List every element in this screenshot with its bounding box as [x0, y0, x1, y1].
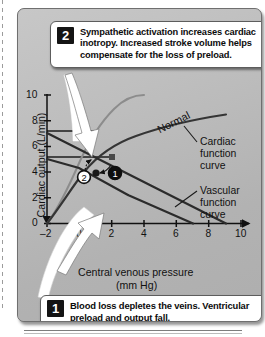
- xtick-6: 6: [173, 228, 179, 239]
- reference-lines: [47, 131, 110, 157]
- plot-point-label-2: 2: [78, 171, 91, 184]
- operating-point-1-marker: [109, 154, 115, 160]
- svg-text:2: 2: [81, 172, 86, 183]
- xtick-0: 0: [76, 228, 82, 239]
- operating-point-2-marker: [92, 169, 99, 176]
- callout-step-2-text: Sympathetic activation increases cardiac…: [80, 27, 262, 61]
- step-badge-1: 1: [47, 300, 64, 317]
- bottom-rule: [24, 330, 242, 331]
- callout-step-2: 2 Sympathetic activation increases cardi…: [50, 21, 262, 68]
- step-badge-2: 2: [57, 27, 74, 44]
- callout-step-1: 1 Blood loss depletes the veins. Ventric…: [40, 295, 262, 322]
- plot-point-label-1: 1: [108, 166, 121, 179]
- y-axis-title: Cardiac output (L/min): [35, 110, 47, 220]
- bottom-rule-shadow: [24, 333, 242, 334]
- xtick-10: 10: [235, 228, 246, 239]
- xtick-minus2: –2: [40, 228, 51, 239]
- callout-step-1-text: Blood loss depletes the veins. Ventricul…: [70, 300, 262, 322]
- curve-label-vascular: Vascularfunctioncurve: [200, 185, 240, 222]
- x-axis-title-line1: Central venous pressure: [78, 266, 193, 278]
- svg-text:1: 1: [112, 168, 117, 179]
- panel-inner: 2 1 10 8 6 4 2 0 –2 0 2 4 6 8: [18, 9, 261, 321]
- xtick-2: 2: [109, 228, 115, 239]
- curve-label-cardiac: Cardiacfunctioncurve: [200, 136, 236, 173]
- x-axis-title-line2: (mm Hg): [116, 279, 157, 291]
- figure-panel: 2 1 10 8 6 4 2 0 –2 0 2 4 6 8: [17, 8, 262, 322]
- xtick-4: 4: [141, 228, 147, 239]
- xtick-8: 8: [206, 228, 212, 239]
- leader-cardiac: [184, 126, 197, 142]
- ytick-10: 10: [26, 89, 37, 100]
- scan-edge-artifact: [2, 0, 3, 310]
